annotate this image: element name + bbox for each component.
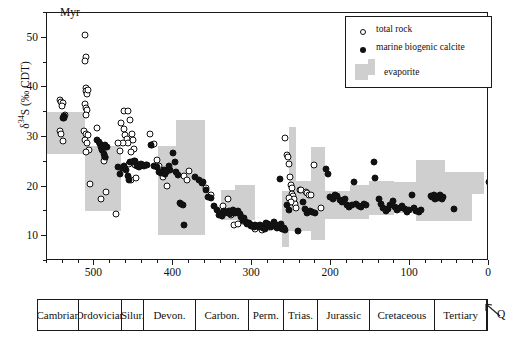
x-axis-major-tick <box>93 260 94 265</box>
period-cell-devon[interactable]: Devon. <box>144 300 196 330</box>
x-axis-major-tick <box>172 260 173 265</box>
period-label: Silur. <box>122 309 144 321</box>
data-point-total-rock <box>98 196 105 203</box>
y-axis-tick-label: 10 <box>27 229 39 241</box>
legend-label-total-rock: total rock <box>376 24 412 34</box>
data-point-total-rock <box>163 183 170 190</box>
x-axis-minor-tick <box>314 260 315 263</box>
x-axis-minor-tick <box>78 260 79 263</box>
data-point-total-rock <box>103 188 110 195</box>
data-point-total-rock <box>59 137 66 144</box>
x-axis-major-tick <box>488 260 489 265</box>
period-label: Carbon. <box>204 309 239 321</box>
legend-evaporite-band-icon <box>355 59 377 81</box>
data-point-total-rock <box>116 147 123 154</box>
period-cell-silur[interactable]: Silur. <box>122 300 144 330</box>
x-axis-minor-tick <box>267 260 268 263</box>
period-cell-perm[interactable]: Perm. <box>249 300 284 330</box>
period-cell-cretaceous[interactable]: Cretaceous <box>370 300 435 330</box>
data-point-marine-biogenic-calcite <box>311 210 318 217</box>
x-axis-minor-tick <box>299 260 300 263</box>
data-point-marine-biogenic-calcite <box>408 191 415 198</box>
data-point-total-rock <box>146 131 153 138</box>
data-point-total-rock <box>86 180 93 187</box>
data-point-total-rock <box>183 176 190 183</box>
period-label: Cretaceous <box>378 309 427 321</box>
data-point-total-rock <box>81 57 88 64</box>
data-point-total-rock <box>186 167 193 174</box>
data-point-marine-biogenic-calcite <box>126 177 133 184</box>
x-axis-minor-tick <box>157 260 158 263</box>
y-axis-major-tick <box>41 136 46 137</box>
data-point-total-rock <box>317 205 324 212</box>
data-point-total-rock <box>124 108 131 115</box>
period-cell-carbon[interactable]: Carbon. <box>196 300 249 330</box>
x-axis-unit-label: Myr <box>60 6 80 18</box>
data-point-marine-biogenic-calcite <box>200 178 207 185</box>
data-point-marine-biogenic-calcite <box>282 226 289 233</box>
x-axis-minor-tick <box>425 260 426 263</box>
period-cell-tertiary[interactable]: Tertiary <box>435 300 487 330</box>
y-axis-minor-tick <box>43 62 46 63</box>
data-point-total-rock <box>58 102 65 109</box>
data-point-total-rock <box>224 195 231 202</box>
legend-label-marine-biogenic-calcite: marine biogenic calcite <box>376 42 465 52</box>
data-point-marine-biogenic-calcite <box>362 202 369 209</box>
y-axis-minor-tick <box>43 12 46 13</box>
data-point-marine-biogenic-calcite <box>372 175 379 182</box>
legend-filled-circle-icon <box>360 47 366 53</box>
y-axis-tick-label: 50 <box>27 31 39 43</box>
data-point-total-rock <box>133 174 140 181</box>
data-point-marine-biogenic-calcite <box>285 207 292 214</box>
x-axis-ticks: 0100200300400500 <box>46 260 488 284</box>
data-point-marine-biogenic-calcite <box>299 199 306 206</box>
data-point-total-rock <box>282 135 289 142</box>
period-cell-cambrian[interactable]: Cambrian <box>38 300 79 330</box>
data-point-total-rock <box>84 139 91 146</box>
data-point-marine-biogenic-calcite <box>170 149 177 156</box>
x-axis-tick-label: 200 <box>322 266 339 278</box>
period-label: Tertiary <box>443 309 478 321</box>
data-point-total-rock <box>115 139 122 146</box>
legend-label-evaporite: evaporite <box>384 67 419 77</box>
data-point-marine-biogenic-calcite <box>324 170 331 177</box>
y-axis-major-tick <box>41 186 46 187</box>
data-point-marine-biogenic-calcite <box>418 207 425 214</box>
x-axis-tick-label: 0 <box>485 266 491 278</box>
x-axis-minor-tick <box>456 260 457 263</box>
period-label: Jurassic <box>326 309 361 321</box>
data-point-marine-biogenic-calcite <box>181 222 188 229</box>
x-axis-tick-label: 500 <box>85 266 102 278</box>
data-point-total-rock <box>126 116 133 123</box>
data-point-marine-biogenic-calcite <box>294 228 301 235</box>
x-axis-minor-tick <box>283 260 284 263</box>
period-cell-jurassic[interactable]: Jurassic <box>318 300 369 330</box>
data-point-marine-biogenic-calcite <box>486 178 488 185</box>
period-label: Devon. <box>153 309 185 321</box>
data-point-total-rock <box>130 136 137 143</box>
data-point-marine-biogenic-calcite <box>203 186 210 193</box>
x-axis-tick-label: 400 <box>164 266 181 278</box>
data-point-marine-biogenic-calcite <box>440 194 447 201</box>
legend-open-circle-icon <box>360 29 366 35</box>
data-point-total-rock <box>93 125 100 132</box>
period-label: Perm. <box>253 309 279 321</box>
x-axis-minor-tick <box>378 260 379 263</box>
y-axis-minor-tick <box>43 111 46 112</box>
data-point-marine-biogenic-calcite <box>101 154 108 161</box>
evaporite-band <box>445 172 472 221</box>
y-axis-major-tick <box>41 235 46 236</box>
period-cell-trias[interactable]: Trias. <box>284 300 319 330</box>
data-point-total-rock <box>81 31 88 38</box>
y-axis-major-tick <box>41 37 46 38</box>
data-point-total-rock <box>128 149 135 156</box>
x-axis-minor-tick <box>362 260 363 263</box>
x-axis-minor-tick <box>235 260 236 263</box>
data-point-total-rock <box>285 160 292 167</box>
quaternary-label: Q <box>497 308 505 320</box>
period-cell-ordovician[interactable]: Ordovician <box>79 300 122 330</box>
data-point-marine-biogenic-calcite <box>175 171 182 178</box>
data-point-marine-biogenic-calcite <box>208 194 215 201</box>
geologic-period-bar: CambrianOrdovicianSilur.Devon.Carbon.Per… <box>37 299 488 331</box>
y-axis-minor-tick <box>43 161 46 162</box>
